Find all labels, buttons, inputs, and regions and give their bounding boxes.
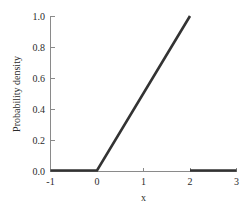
- x-tick-label--1: -1: [46, 176, 54, 187]
- data-line-ramp: [51, 16, 191, 171]
- x-axis-title: x: [141, 192, 146, 203]
- x-tick-label-2: 2: [188, 176, 193, 187]
- x-tick-label-1: 1: [141, 176, 146, 187]
- y-tick-label-1.0: 1.0: [33, 11, 46, 22]
- y-tick-label-0.8: 0.8: [33, 42, 46, 53]
- figure-container: 1.0 0.8 0.6 0.4 0.2 0.0 -1 0 1 2 3 x Pro…: [0, 0, 247, 211]
- x-tick-label-0: 0: [95, 176, 100, 187]
- chart-canvas: 1.0 0.8 0.6 0.4 0.2 0.0 -1 0 1 2 3 x Pro…: [0, 0, 247, 211]
- y-tick-label-0.0: 0.0: [33, 166, 46, 177]
- y-tick-label-0.2: 0.2: [33, 135, 46, 146]
- y-tick-label-0.4: 0.4: [33, 104, 46, 115]
- x-tick-label-3: 3: [234, 176, 239, 187]
- y-tick-label-0.6: 0.6: [33, 73, 46, 84]
- y-axis-title: Probability density: [11, 56, 22, 132]
